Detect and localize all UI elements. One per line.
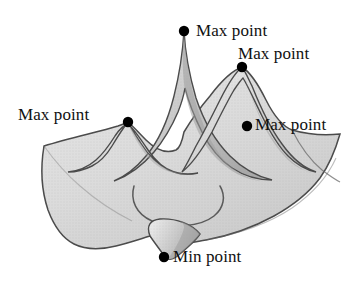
max-point-mid-label: Max point [255, 116, 326, 133]
max-point-top-label: Max point [196, 22, 267, 39]
surface-figure: Max point Max point Max point Max point … [0, 0, 360, 283]
max-point-mid-marker [242, 121, 252, 131]
max-point-left-marker [123, 117, 133, 127]
max-point-left-label: Max point [18, 106, 89, 123]
min-point-bottom-label: Min point [173, 248, 241, 265]
max-point-top-marker [179, 26, 189, 36]
max-point-right-marker [237, 62, 247, 72]
surface-illustration [0, 0, 360, 283]
max-point-right-label: Max point [238, 45, 309, 62]
min-point-bottom-marker [159, 252, 169, 262]
